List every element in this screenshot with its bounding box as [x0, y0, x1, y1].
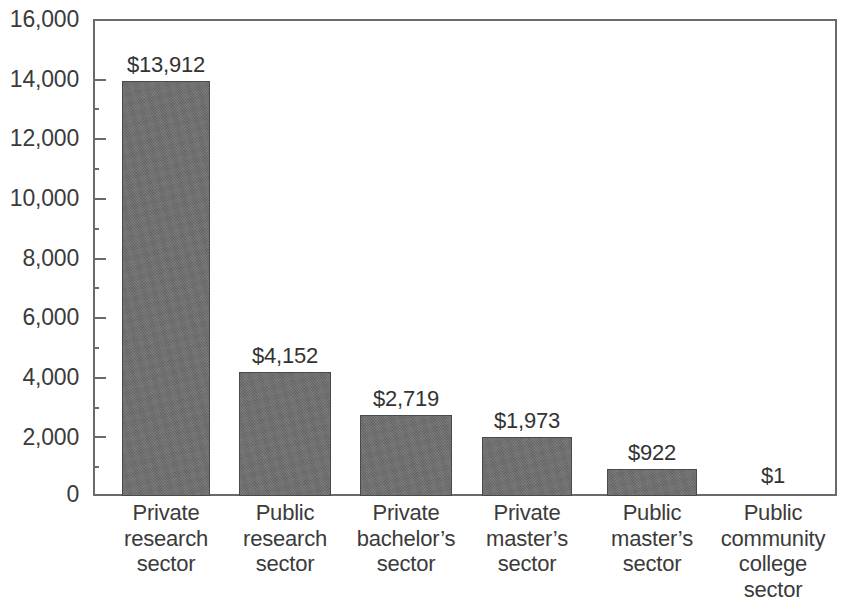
- x-category-line: college: [698, 551, 848, 577]
- x-category-label: Public community college sector: [698, 500, 848, 602]
- x-category-label: Private master’s sector: [459, 500, 595, 577]
- y-tick-label: 0: [66, 483, 79, 506]
- x-category-line: Public: [217, 500, 353, 526]
- y-tick-label: 2,000: [22, 425, 79, 448]
- y-tick-label: 8,000: [22, 246, 79, 269]
- y-tick-label: 4,000: [22, 365, 79, 388]
- x-category-line: sector: [459, 551, 595, 577]
- x-axis: Private research sector Public research …: [93, 500, 837, 611]
- x-category-line: research: [217, 526, 353, 552]
- y-tick-label: 6,000: [22, 306, 79, 329]
- x-category-line: sector: [98, 551, 234, 577]
- x-category-line: Private: [459, 500, 595, 526]
- bars-layer: $13,912 $4,152 $2,719 $1,973 $922 $1: [93, 19, 837, 496]
- bar-value-label: $13,912: [127, 54, 205, 76]
- bar-value-label: $922: [628, 442, 676, 464]
- bar-group: $1,973: [482, 19, 572, 496]
- bar-group: $13,912: [122, 19, 210, 496]
- bar-group: $4,152: [239, 19, 331, 496]
- x-category-line: Public: [698, 500, 848, 526]
- y-tick-label: 16,000: [10, 8, 79, 31]
- x-category-line: community: [698, 526, 848, 552]
- x-category-label: Private bachelor’s sector: [336, 500, 476, 577]
- x-category-label: Private research sector: [98, 500, 234, 577]
- x-category-line: Private: [98, 500, 234, 526]
- bar-rect[interactable]: [122, 81, 210, 496]
- bar-group: $1: [728, 19, 818, 496]
- bar-rect[interactable]: [360, 415, 452, 496]
- x-category-line: master’s: [459, 526, 595, 552]
- x-category-label: Public research sector: [217, 500, 353, 577]
- bar-value-label: $2,719: [373, 388, 439, 410]
- y-axis: 16,000 14,000 12,000 10,000 8,000 6,000 …: [0, 0, 93, 611]
- x-category-line: Private: [336, 500, 476, 526]
- bar-group: $2,719: [360, 19, 452, 496]
- bar-group: $922: [607, 19, 697, 496]
- bar-value-label: $1: [761, 465, 785, 487]
- bar-rect[interactable]: [239, 372, 331, 496]
- x-category-line: sector: [336, 551, 476, 577]
- y-tick-label: 12,000: [10, 127, 79, 150]
- x-category-line: research: [98, 526, 234, 552]
- bar-rect[interactable]: [607, 469, 697, 497]
- bar-value-label: $4,152: [252, 345, 318, 367]
- x-category-line: sector: [217, 551, 353, 577]
- x-category-line: bachelor’s: [336, 526, 476, 552]
- y-tick-label: 14,000: [10, 67, 79, 90]
- x-category-line: sector: [698, 577, 848, 603]
- y-tick-label: 10,000: [10, 186, 79, 209]
- bar-chart: 16,000 14,000 12,000 10,000 8,000 6,000 …: [0, 0, 852, 611]
- bar-rect[interactable]: [482, 437, 572, 496]
- bar-value-label: $1,973: [494, 410, 560, 432]
